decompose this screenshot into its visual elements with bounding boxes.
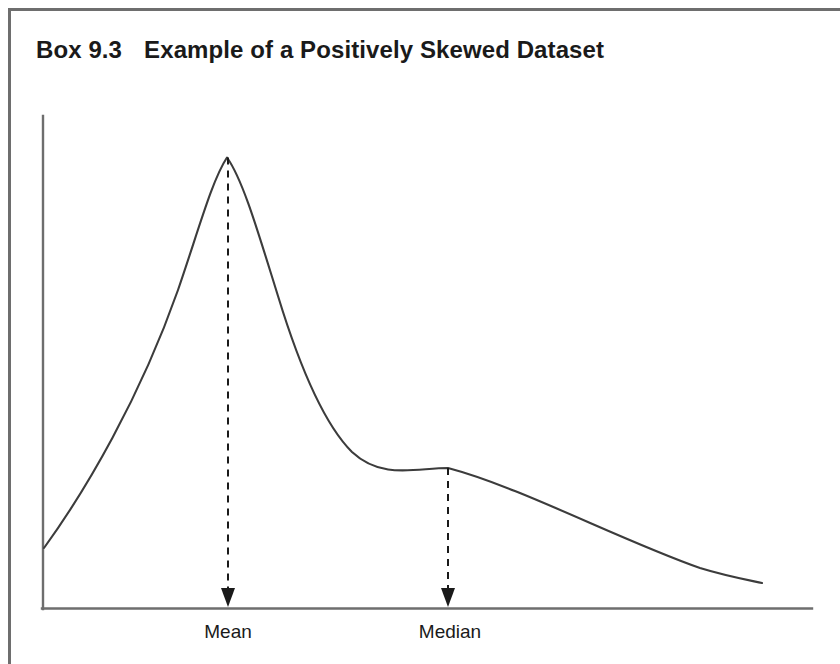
- figure-container: Box 9.3Example of a Positively Skewed Da…: [0, 0, 840, 664]
- median-label: Median: [419, 621, 481, 643]
- distribution-curve: [44, 158, 762, 584]
- mean-label: Mean: [204, 621, 252, 643]
- mean-arrowhead-icon: [221, 588, 235, 607]
- median-arrowhead-icon: [441, 588, 455, 607]
- skewed-distribution-plot: [0, 0, 840, 664]
